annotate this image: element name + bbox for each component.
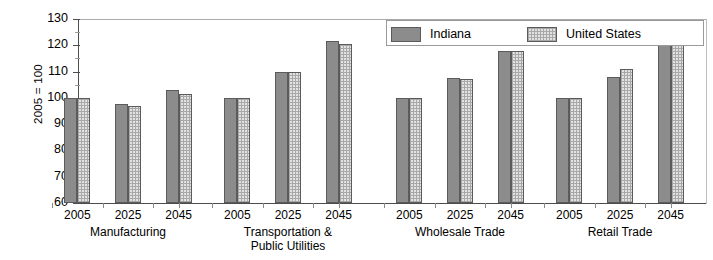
y-tick-label-120: 120 [24,38,68,50]
y-tick-label-130: 130 [24,12,68,24]
legend-item-indiana: Indiana [391,24,471,44]
bar-united-states [460,79,473,203]
bar-indiana [166,90,179,203]
legend-swatch-icon-indiana [391,27,421,42]
x-tick-label-2045: 2045 [149,208,209,222]
bar-indiana [275,72,288,203]
bar-indiana [607,77,620,203]
y-tick-label-70: 70 [24,170,68,182]
x-axis-line [78,203,707,204]
bar-united-states [671,35,684,203]
bar-united-states [128,106,141,203]
y-tick-60 [73,203,80,204]
bar-united-states [409,98,422,203]
bar-indiana [64,98,77,203]
y-tick-label-100: 100 [24,91,68,103]
bar-united-states [511,51,524,203]
y-tick-label-90: 90 [24,117,68,129]
group-label-line: Retail Trade [510,225,713,239]
bar-united-states [569,98,582,203]
bar-indiana [498,51,511,203]
y-tick-minor-105 [75,85,80,86]
bar-indiana [115,104,128,203]
y-tick-minor-125 [75,32,80,33]
legend-item-united-states: United States [527,24,641,44]
y-tick-130 [73,19,80,20]
bar-united-states [620,69,633,203]
bar-united-states [77,98,90,203]
y-tick-label-110: 110 [24,65,68,77]
x-tick-label-2045: 2045 [309,208,369,222]
y-tick-label-60: 60 [24,196,68,208]
x-tick-label-2045: 2045 [641,208,701,222]
bar-united-states [288,72,301,203]
bar-united-states [179,94,192,203]
bar-indiana [447,78,460,203]
legend: Indiana United States [386,20,704,46]
bar-indiana [658,45,671,203]
group-label-line: Public Utilities [178,239,398,253]
bar-united-states [339,44,352,203]
bar-indiana [556,98,569,203]
bar-indiana [396,98,409,203]
y-tick-110 [73,72,80,73]
plot-right-frame [706,19,707,204]
bar-united-states [237,98,250,203]
y-tick-label-80: 80 [24,143,68,155]
legend-swatch-icon-united-states [527,27,557,42]
y-tick-minor-115 [75,58,80,59]
y-tick-120 [73,45,80,46]
bar-indiana [224,98,237,203]
legend-label-indiana: Indiana [430,27,471,41]
bar-chart: 2005 = 100 60708090100110120130 20052025… [0,0,713,260]
x-tick-label-2045: 2045 [481,208,541,222]
group-label-retail-trade: Retail Trade [510,225,713,239]
bar-indiana [326,41,339,203]
legend-label-united-states: United States [566,27,641,41]
